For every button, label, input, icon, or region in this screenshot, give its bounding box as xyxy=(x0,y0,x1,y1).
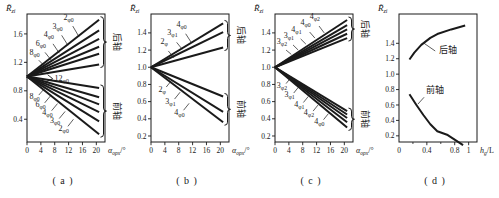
label-leader-line xyxy=(418,97,424,104)
axle-group-label-rear-axle: 后轴 xyxy=(236,26,247,44)
panel-c-caption: ( c ) xyxy=(249,175,373,186)
label-leader-line xyxy=(68,119,74,126)
y-tick-label: 0.2 xyxy=(137,132,147,141)
series-label: 4φ0 xyxy=(44,30,54,40)
y-axis-title: R̃zi xyxy=(5,3,16,14)
x-tick-label: 0.8 xyxy=(450,146,460,155)
axle-group-label-front-axle: 前轴 xyxy=(360,110,371,128)
brace-rear-axle xyxy=(101,17,107,68)
y-tick-label: 0.8 xyxy=(261,80,271,89)
series-label: 12φ0 xyxy=(55,74,69,84)
label-leader-line xyxy=(324,114,329,120)
x-tick-label: 0 xyxy=(273,146,277,155)
x-tick-label: 0 xyxy=(25,146,29,155)
x-tick-label: 4 xyxy=(287,146,291,155)
y-tick-label: 0.8 xyxy=(385,85,395,94)
x-tick-label: 12 xyxy=(189,146,197,155)
x-tick-label: 16 xyxy=(79,146,87,155)
x-axis-title: αopx/° xyxy=(108,146,126,156)
brace-front-axle xyxy=(101,85,107,137)
y-tick-label: 1.2 xyxy=(261,46,271,55)
label-leader-line xyxy=(53,44,59,53)
chart-panel-b: 0481216200.20.40.60.81.01.21.4R̃ziαopx/°… xyxy=(125,0,249,172)
x-tick-label: 20 xyxy=(93,146,101,155)
label-leader-line xyxy=(62,35,68,45)
axes-box xyxy=(151,14,229,142)
panel-c: 0481216200.20.40.60.81.01.21.4R̃ziαopx/°… xyxy=(249,0,373,186)
label-leader-line xyxy=(294,87,299,93)
label-leader-line xyxy=(424,43,435,51)
series-line-rear-axle-后轴 xyxy=(409,26,465,60)
x-tick-label: 0.4 xyxy=(422,146,432,155)
x-tick-label: 0 xyxy=(149,146,153,155)
y-axis-title: R̃zi xyxy=(377,3,388,14)
series-label: 2φ0 xyxy=(59,124,69,134)
y-tick-label: 0.6 xyxy=(137,97,147,106)
x-tick-label: 20 xyxy=(341,146,349,155)
y-tick-label: 0.4 xyxy=(261,114,271,123)
y-tick-label: 0.4 xyxy=(13,115,23,124)
brace-rear-axle xyxy=(349,17,355,41)
series-label: 3φ1 xyxy=(167,28,177,38)
x-tick-label: 8 xyxy=(301,146,305,155)
x-tick-label: 8 xyxy=(177,146,181,155)
series-label: 后轴 xyxy=(439,44,457,55)
label-leader-line xyxy=(286,50,291,54)
label-leader-line xyxy=(293,45,298,50)
y-tick-label: 0.6 xyxy=(385,101,395,110)
x-tick-label: 4 xyxy=(163,146,167,155)
x-axis-title: αopx/° xyxy=(232,146,250,156)
label-leader-line xyxy=(52,104,58,111)
y-tick-label: 1.0 xyxy=(137,63,147,72)
y-tick-label: 1.0 xyxy=(385,70,395,79)
y-tick-label: 1.4 xyxy=(261,28,271,37)
series-label: 4φ0 xyxy=(314,117,324,127)
x-tick-label: 12 xyxy=(313,146,321,155)
panel-d-caption: ( d ) xyxy=(373,175,497,186)
brace-front-axle xyxy=(349,108,355,130)
label-leader-line xyxy=(73,26,79,37)
y-tick-label: 0.2 xyxy=(385,131,395,140)
axle-group-label-rear-axle: 后轴 xyxy=(360,20,371,38)
y-tick-label: 1.4 xyxy=(385,39,395,48)
series-label: 前轴 xyxy=(426,84,444,95)
label-leader-line xyxy=(59,111,65,118)
y-tick-label: 0.6 xyxy=(261,97,271,106)
series-line-front-axle-前轴 xyxy=(409,94,463,145)
chart-panel-a: 0481216200.40.81.21.6R̃ziαopx/°2φ03φ04φ0… xyxy=(1,0,125,172)
multi-panel-line-figure: 0481216200.40.81.21.6R̃ziαopx/°2φ03φ04φ0… xyxy=(0,0,499,186)
y-axis-title: R̃zi xyxy=(129,3,140,14)
brace-rear-axle xyxy=(225,20,231,50)
label-leader-line xyxy=(45,96,51,103)
x-tick-label: 16 xyxy=(327,146,335,155)
y-tick-label: 0.4 xyxy=(385,116,395,125)
axle-group-label-rear-axle: 后轴 xyxy=(112,33,123,51)
panel-b-caption: ( b ) xyxy=(125,175,249,186)
label-leader-line xyxy=(175,92,181,99)
y-tick-label: 1.0 xyxy=(261,63,271,72)
series-label: 8φ0 xyxy=(30,48,40,58)
y-tick-label: 0.2 xyxy=(261,132,271,141)
x-tick-label: 20 xyxy=(217,146,225,155)
panel-a: 0481216200.40.81.21.6R̃ziαopx/°2φ03φ04φ0… xyxy=(1,0,125,186)
series-label: 2φ xyxy=(160,37,168,47)
x-axis-title: αopx/° xyxy=(356,146,374,156)
x-tick-label: 1 xyxy=(467,146,471,155)
series-line-rear-axle-2φ0 xyxy=(27,20,99,77)
y-tick-label: 0.4 xyxy=(137,114,147,123)
label-leader-line xyxy=(301,39,306,44)
x-axis-title: hg/L xyxy=(480,146,494,156)
brace-front-axle xyxy=(225,93,231,125)
y-tick-label: 1.2 xyxy=(385,54,395,63)
y-tick-label: 1.2 xyxy=(13,58,23,67)
axle-group-label-front-axle: 前轴 xyxy=(236,100,247,118)
series-label: 6φ0 xyxy=(36,39,46,49)
label-leader-line xyxy=(186,34,192,43)
series-label: 4φ0 xyxy=(176,20,186,30)
series-label: 3φ1 xyxy=(165,97,175,107)
y-tick-label: 1.4 xyxy=(137,28,147,37)
x-tick-label: 12 xyxy=(65,146,73,155)
series-label: 4φ2 xyxy=(304,108,314,118)
label-leader-line xyxy=(303,96,308,102)
label-leader-line xyxy=(310,32,315,38)
